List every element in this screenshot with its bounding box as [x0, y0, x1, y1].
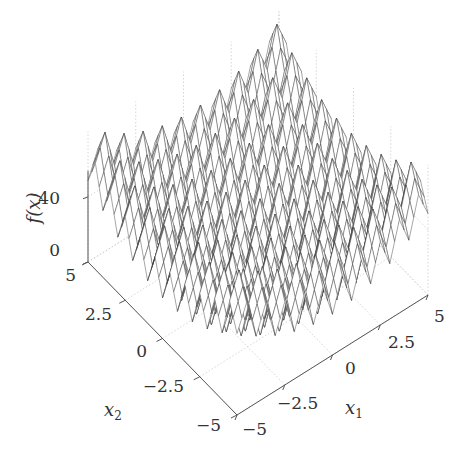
- x2-tick-label-minus5: −5: [196, 415, 221, 435]
- x1-label-sub: 1: [355, 407, 363, 421]
- x1-axis-label: x1: [345, 397, 363, 421]
- surface-mesh: [88, 24, 428, 336]
- x1-label-base: x: [345, 397, 355, 418]
- x1-tick-label-minus5: −5: [242, 419, 267, 439]
- x2-tick-label-5: 5: [65, 265, 76, 285]
- x2-tick: [119, 300, 125, 303]
- x1-tick-label-0: 0: [345, 358, 356, 378]
- z-tick: [83, 197, 88, 199]
- surface-plot: 40 0 5 2.5 0 −2.5 −5 −5 −2.5 0 2.5 5 f(x…: [0, 0, 469, 470]
- x2-tick-label-2.5: 2.5: [85, 304, 112, 324]
- x2-tick-label-minus2.5: −2.5: [143, 376, 184, 396]
- x2-axis-label: x2: [104, 399, 122, 423]
- x2-tick: [194, 377, 200, 380]
- x1-tick-label-5: 5: [434, 306, 445, 326]
- x2-tick: [157, 339, 163, 342]
- z-tick-label-0: 0: [49, 240, 60, 260]
- z-axis-label: f(x): [23, 193, 44, 226]
- x2-tick-label-0: 0: [136, 341, 147, 361]
- x1-tick-label-2.5: 2.5: [388, 332, 415, 352]
- x1-tick-label-minus2.5: −2.5: [277, 393, 318, 413]
- x2-label-base: x: [104, 399, 114, 420]
- x2-label-sub: 2: [114, 409, 122, 423]
- mesh-cell: [420, 188, 429, 214]
